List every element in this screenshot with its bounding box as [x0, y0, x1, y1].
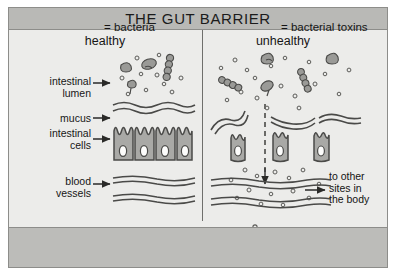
- healthy-mucus-layer: [113, 103, 195, 114]
- bacterium-oval: [140, 57, 157, 71]
- legend-label-bacteria: = bacteria: [104, 21, 155, 33]
- bacterium-tail: [130, 88, 131, 94]
- unhealthy-mucus-layer-degraded: [211, 111, 361, 134]
- bacterium-curl-2: [326, 53, 338, 64]
- label-arrows: [93, 83, 110, 184]
- bacterium-oval: [259, 79, 275, 93]
- legend-band: [9, 227, 387, 267]
- bacterium-chain: [162, 54, 174, 81]
- bacterium-chain: [217, 75, 242, 92]
- unhealthy-blood-vessels: [211, 178, 331, 208]
- bacterium-curl: [261, 53, 273, 64]
- legend-label-bacterial-toxins: = bacterial toxins: [281, 21, 368, 33]
- unhealthy-bacteria-group: [217, 53, 338, 96]
- unhealthy-panel-drawing: [211, 53, 361, 208]
- unhealthy-cell-nuclei: [235, 146, 325, 156]
- healthy-panel-drawing: [113, 53, 195, 204]
- healthy-bacteria-group: [121, 54, 175, 94]
- figure-panel: THE GUT BARRIER healthy unhealthy intest…: [8, 7, 388, 268]
- bacterium-chain: [297, 68, 313, 94]
- bacterium-curl: [121, 63, 132, 72]
- healthy-blood-vessels: [113, 176, 195, 204]
- bacterium-curl-2: [128, 80, 137, 88]
